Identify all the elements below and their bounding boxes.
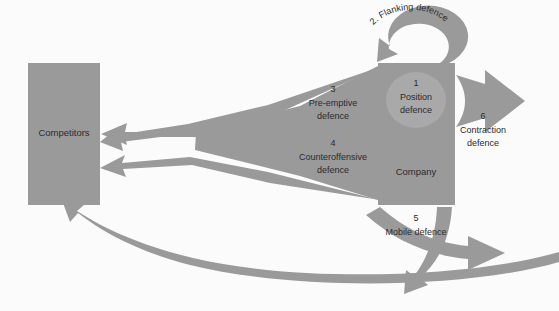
mobile-defence-line1: Mobile defence — [385, 227, 446, 237]
contraction-defence-number: 6 — [480, 111, 485, 121]
mobile-defence-number: 5 — [413, 213, 418, 223]
counteroffensive-defence-line1: Counteroffensive — [299, 152, 367, 162]
counteroffensive-defence-number: 4 — [330, 138, 335, 148]
preemptive-defence-line2: defence — [317, 111, 349, 121]
arrow-return-to-competitors — [63, 203, 559, 283]
defence-strategies-diagram: Competitors Company 1 Position defence 2… — [0, 0, 559, 311]
contraction-defence-line2: defence — [467, 138, 499, 148]
preemptive-defence-number: 3 — [330, 84, 335, 94]
position-defence-line2: defence — [400, 105, 432, 115]
diagram-canvas: Competitors Company 1 Position defence 2… — [0, 0, 559, 311]
counteroffensive-defence-line2: defence — [317, 165, 349, 175]
competitors-label: Competitors — [38, 127, 89, 138]
company-label: Company — [396, 166, 437, 177]
position-defence-line1: Position — [400, 92, 432, 102]
preemptive-defence-line1: Pre-emptive — [309, 98, 358, 108]
arrow-contraction-defence — [456, 70, 525, 132]
contraction-defence-line1: Contraction — [460, 125, 506, 135]
fan-arrows-group — [100, 66, 380, 200]
position-defence-number: 1 — [413, 78, 418, 88]
